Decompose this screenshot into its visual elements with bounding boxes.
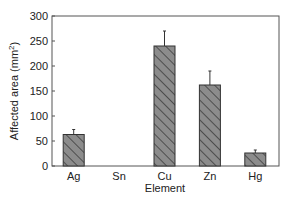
bar-ag (63, 135, 84, 167)
x-tick-label: Sn (112, 170, 125, 182)
bar-hg (245, 153, 266, 166)
x-axis-title: Element (145, 182, 185, 194)
y-tick-label: 150 (30, 85, 48, 97)
x-tick-label: Hg (248, 170, 262, 182)
bar-zn (199, 85, 220, 166)
bars (63, 31, 266, 166)
y-axis-title: Affected area (mm2) (7, 42, 20, 140)
y-tick-label: 300 (30, 10, 48, 22)
y-tick-label: 200 (30, 60, 48, 72)
y-tick-label: 0 (42, 160, 48, 172)
x-tick-label: Zn (203, 170, 216, 182)
x-axis-ticks: AgSnCuZnHg (67, 170, 262, 182)
y-tick-label: 250 (30, 35, 48, 47)
y-tick-label: 100 (30, 110, 48, 122)
x-tick-label: Ag (67, 170, 80, 182)
bar-chart: 050100150200250300 AgSnCuZnHg Element Af… (0, 0, 292, 201)
y-axis-ticks: 050100150200250300 (30, 10, 55, 172)
x-tick-label: Cu (157, 170, 171, 182)
bar-cu (154, 46, 175, 166)
y-tick-label: 50 (36, 135, 48, 147)
